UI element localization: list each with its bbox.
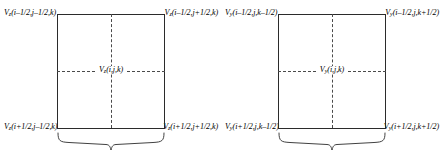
node-label-center: Vy(i,j,k) [317,66,347,74]
cell-bottom-edge [57,128,165,129]
symbol-args: (i+1/2,j–1/2,k) [11,122,57,131]
node-label-bottom-left: Vy(i+1/2,j,k–1/2) [225,123,279,131]
node-label-bottom-right: Vz(i+1/2,j+1/2,k) [163,123,218,131]
node-label-top-right: Vz(i–1/2,j+1/2,k) [165,9,218,17]
symbol-args: (i,j,k) [106,65,123,74]
symbol-args: (i–1/2,j,k+1/2) [393,8,439,17]
node-label-bottom-right: Vy(i+1/2,j,k+1/2) [384,123,439,131]
symbol-args: (i–1/2,j–1/2,k) [11,8,56,17]
symbol-args: (i+1/2,j,k+1/2) [391,122,439,131]
brace-icon [278,132,386,154]
symbol-args: (i+1/2,j,k–1/2) [233,122,279,131]
symbol-args: (i,j,k) [327,65,344,74]
cell-group-xy: Vz(i–1/2,j–1/2,k) Vz(i–1/2,j+1/2,k) Vz(i… [0,0,222,158]
cell-bottom-edge [278,128,386,129]
symbol-args: (i+1/2,j+1/2,k) [170,122,218,131]
symbol-args: (i–1/2,j,k–1/2) [233,8,278,17]
brace-icon [57,132,165,154]
node-label-bottom-left: Vz(i+1/2,j–1/2,k) [4,123,57,131]
node-label-top-right: Vy(i–1/2,j,k+1/2) [385,9,439,17]
group-brace [57,132,165,154]
node-label-top-left: Vy(i–1/2,j,k–1/2) [225,9,277,17]
symbol-args: (i–1/2,j+1/2,k) [172,8,218,17]
diagram-canvas: Vz(i–1/2,j–1/2,k) Vz(i–1/2,j+1/2,k) Vz(i… [0,0,443,158]
group-brace [278,132,386,154]
cell-group-xz: Vy(i–1/2,j,k–1/2) Vy(i–1/2,j,k+1/2) Vy(i… [221,0,443,158]
node-label-center: Vz(i,j,k) [96,66,126,74]
node-label-top-left: Vz(i–1/2,j–1/2,k) [4,9,56,17]
